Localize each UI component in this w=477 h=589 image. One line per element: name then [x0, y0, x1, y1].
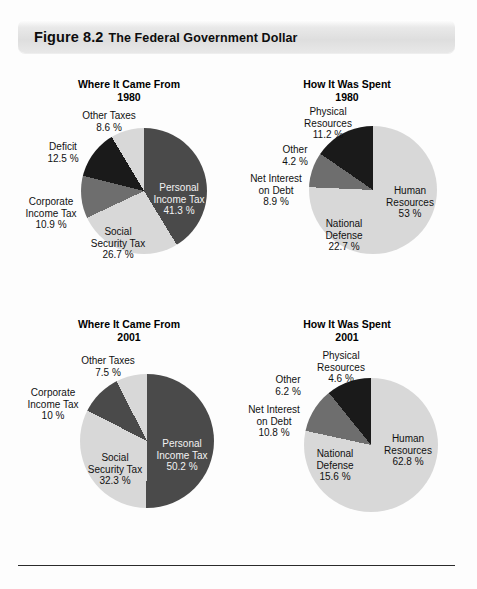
chart-1-label-corporate: Corporate Income Tax 10.9 %	[16, 196, 86, 231]
chart-2-label-human: Human Resources 53 %	[375, 185, 445, 220]
chart-2-human-name1: Human	[394, 185, 426, 196]
chart-1-other-taxes-name: Other Taxes	[82, 110, 136, 121]
chart-panel-came-from-1980: Where It Came From 1980 Other Taxes 8.6 …	[18, 78, 240, 276]
chart-1-social-value: 26.7 %	[102, 249, 133, 260]
chart-4-label-net-interest: Net Interest on Debt 10.8 %	[236, 404, 312, 439]
chart-3-corporate-name2: Income Tax	[28, 399, 79, 410]
chart-2-label-physical: Physical Resources 11.2 %	[288, 106, 368, 141]
chart-1-personal-value: 41.3 %	[163, 205, 194, 216]
footer-divider	[18, 565, 455, 566]
chart-title-4-main: How It Was Spent	[303, 318, 391, 330]
chart-1-label-deficit: Deficit 12.5 %	[30, 141, 96, 164]
figure-page: { "figure": { "number": "Figure 8.2", "t…	[0, 0, 477, 589]
chart-4-physical-value: 4.6 %	[328, 373, 354, 384]
figure-number: Figure 8.2	[34, 29, 104, 45]
chart-3-social-name1: Social	[101, 452, 128, 463]
chart-2-human-value: 53 %	[399, 208, 422, 219]
chart-1-label-personal: Personal Income Tax 41.3 %	[143, 182, 215, 217]
chart-title-3: Where It Came From 2001	[18, 318, 240, 343]
figure-header-bar: Figure 8.2The Federal Government Dollar	[18, 20, 455, 53]
chart-4-defense-name2: Defense	[316, 460, 353, 471]
chart-2-physical-name2: Resources	[304, 118, 352, 129]
chart-3-label-personal: Personal Income Tax 50.2 %	[146, 438, 218, 473]
chart-2-defense-value: 22.7 %	[328, 241, 359, 252]
chart-title-1-year: 1980	[18, 91, 240, 104]
chart-4-label-other: Other 6.2 %	[260, 374, 316, 397]
chart-3-social-name2: Security Tax	[88, 464, 142, 475]
chart-2-net-interest-value: 8.9 %	[263, 196, 289, 207]
chart-3-personal-value: 50.2 %	[166, 461, 197, 472]
chart-title-2: How It Was Spent 1980	[242, 78, 452, 103]
chart-title-4-year: 2001	[242, 331, 452, 344]
figure-title: The Federal Government Dollar	[109, 31, 298, 45]
chart-4-other-value: 6.2 %	[275, 386, 301, 397]
chart-2-human-name2: Resources	[386, 197, 434, 208]
chart-3-other-taxes-name: Other Taxes	[81, 355, 135, 366]
chart-2-other-value: 4.2 %	[282, 156, 308, 167]
chart-3-corporate-name1: Corporate	[31, 387, 75, 398]
chart-3-label-social: Social Security Tax 32.3 %	[76, 452, 154, 487]
chart-2-other-name: Other	[282, 144, 307, 155]
chart-panel-spent-2001: How It Was Spent 2001 Physical Resources…	[242, 318, 470, 548]
chart-1-personal-name1: Personal	[159, 182, 198, 193]
chart-4-label-human: Human Resources 62.8 %	[372, 433, 444, 468]
figure-header-text: Figure 8.2The Federal Government Dollar	[34, 29, 298, 45]
chart-4-human-name1: Human	[392, 433, 424, 444]
chart-1-label-other-taxes: Other Taxes 8.6 %	[66, 110, 152, 133]
chart-4-label-defense: National Defense 15.6 %	[302, 448, 368, 483]
chart-2-label-other: Other 4.2 %	[266, 144, 324, 167]
chart-1-label-social: Social Security Tax 26.7 %	[80, 226, 156, 261]
chart-1-deficit-value: 12.5 %	[47, 153, 78, 164]
chart-3-personal-name2: Income Tax	[157, 450, 208, 461]
chart-1-social-name2: Security Tax	[91, 238, 145, 249]
chart-4-physical-name1: Physical	[322, 350, 359, 361]
chart-title-2-year: 1980	[242, 91, 452, 104]
chart-title-2-main: How It Was Spent	[303, 78, 391, 90]
chart-4-other-name: Other	[275, 374, 300, 385]
chart-1-corporate-name1: Corporate	[29, 196, 73, 207]
chart-1-social-name1: Social	[104, 226, 131, 237]
footer-note	[24, 580, 454, 589]
chart-2-defense-name1: National	[326, 218, 363, 229]
chart-title-3-main: Where It Came From	[78, 318, 180, 330]
chart-3-social-value: 32.3 %	[99, 475, 130, 486]
chart-3-label-corporate: Corporate Income Tax 10 %	[16, 387, 90, 422]
chart-3-label-other-taxes: Other Taxes 7.5 %	[66, 355, 150, 378]
chart-title-3-year: 2001	[18, 331, 240, 344]
chart-4-defense-value: 15.6 %	[319, 471, 350, 482]
chart-4-physical-name2: Resources	[317, 362, 365, 373]
chart-1-deficit-name: Deficit	[49, 141, 77, 152]
chart-panel-spent-1980: How It Was Spent 1980 Physical Resources…	[242, 78, 470, 276]
chart-4-net-interest-value: 10.8 %	[258, 427, 289, 438]
chart-1-personal-name2: Income Tax	[154, 194, 205, 205]
chart-3-personal-name1: Personal	[162, 438, 201, 449]
chart-1-other-taxes-value: 8.6 %	[96, 122, 122, 133]
chart-4-human-name2: Resources	[384, 445, 432, 456]
chart-3-other-taxes-value: 7.5 %	[95, 367, 121, 378]
chart-4-net-interest-name1: Net Interest	[248, 404, 300, 415]
chart-2-net-interest-name2: on Debt	[258, 185, 293, 196]
chart-2-net-interest-name1: Net Interest	[250, 173, 302, 184]
chart-4-human-value: 62.8 %	[392, 456, 423, 467]
chart-title-1: Where It Came From 1980	[18, 78, 240, 103]
chart-title-4: How It Was Spent 2001	[242, 318, 452, 343]
chart-4-defense-name1: National	[317, 448, 354, 459]
chart-1-corporate-value: 10.9 %	[35, 219, 66, 230]
chart-1-corporate-name2: Income Tax	[26, 208, 77, 219]
chart-2-label-defense: National Defense 22.7 %	[311, 218, 377, 253]
chart-panel-came-from-2001: Where It Came From 2001 Other Taxes 7.5 …	[18, 318, 240, 548]
chart-2-defense-name2: Defense	[325, 230, 362, 241]
chart-3-corporate-value: 10 %	[42, 410, 65, 421]
chart-2-label-net-interest: Net Interest on Debt 8.9 %	[238, 173, 314, 208]
chart-2-physical-value: 11.2 %	[313, 129, 343, 140]
chart-4-net-interest-name2: on Debt	[256, 416, 291, 427]
chart-2-physical-name1: Physical	[309, 106, 346, 117]
chart-title-1-main: Where It Came From	[78, 78, 180, 90]
